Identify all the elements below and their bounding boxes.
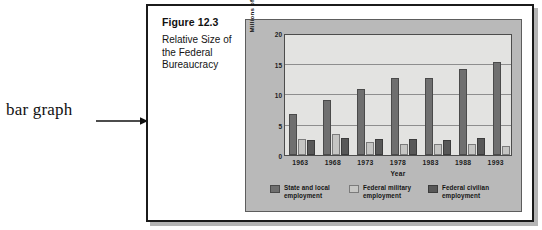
bar xyxy=(366,142,374,155)
legend-item: Federal military employment xyxy=(349,184,428,208)
x-tick-label: 1978 xyxy=(382,159,415,170)
annotation-callout: bar graph xyxy=(0,96,150,136)
x-tick-label: 1968 xyxy=(317,159,350,170)
bar xyxy=(357,89,365,155)
legend-item: Federal civilian employment xyxy=(428,184,507,208)
legend-label: Federal military employment xyxy=(363,184,428,200)
arrow-right-icon xyxy=(96,116,148,126)
x-axis-ticks: 1963196819731978198319881993 xyxy=(284,159,512,170)
legend-swatch xyxy=(428,185,438,193)
bar-group xyxy=(285,35,319,155)
bar-group xyxy=(489,35,512,155)
chart-legend: State and local employmentFederal milita… xyxy=(270,184,507,208)
y-tick-label: 15 xyxy=(275,61,282,68)
y-axis-ticks: 05101520 xyxy=(260,28,284,156)
bar xyxy=(425,78,433,155)
y-tick-label: 5 xyxy=(278,122,282,129)
annotation-label: bar graph xyxy=(6,100,72,120)
figure-number: Figure 12.3 xyxy=(162,16,246,28)
bar xyxy=(477,138,485,155)
x-tick-label: 1988 xyxy=(447,159,480,170)
legend-swatch xyxy=(270,185,280,193)
bar xyxy=(459,69,467,155)
bar xyxy=(332,134,340,155)
bar xyxy=(323,100,331,155)
x-axis-label: Year xyxy=(284,170,512,177)
bar xyxy=(493,62,501,155)
bar xyxy=(409,139,417,155)
plot-area xyxy=(284,34,512,156)
bar xyxy=(502,146,510,155)
y-tick-label: 10 xyxy=(275,92,282,99)
y-tick-label: 0 xyxy=(278,153,282,160)
legend-swatch xyxy=(349,185,359,193)
bar xyxy=(511,139,512,155)
legend-label: Federal civilian employment xyxy=(442,184,507,200)
legend-item: State and local employment xyxy=(270,184,349,208)
bar xyxy=(375,139,383,155)
x-tick-label: 1993 xyxy=(479,159,512,170)
figure-caption: Figure 12.3 Relative Size of the Federal… xyxy=(162,16,246,72)
bar-group xyxy=(421,35,455,155)
bar-group xyxy=(387,35,421,155)
bar xyxy=(341,138,349,155)
y-tick-label: 20 xyxy=(275,31,282,38)
bar xyxy=(298,139,306,155)
legend-label: State and local employment xyxy=(284,184,349,200)
bar xyxy=(391,78,399,155)
bar-group xyxy=(455,35,489,155)
bar xyxy=(400,144,408,155)
bar-group xyxy=(319,35,353,155)
bar-groups xyxy=(285,35,511,155)
bar xyxy=(434,144,442,155)
x-tick-label: 1983 xyxy=(414,159,447,170)
figure-frame: Figure 12.3 Relative Size of the Federal… xyxy=(146,4,534,222)
x-tick-label: 1963 xyxy=(284,159,317,170)
bar xyxy=(443,140,451,155)
y-axis-label: Millions of Employees xyxy=(248,0,258,46)
figure-title: Relative Size of the Federal Bureaucracy xyxy=(162,34,246,72)
bar xyxy=(289,114,297,155)
x-tick-label: 1973 xyxy=(349,159,382,170)
bar xyxy=(307,140,315,155)
bar xyxy=(468,144,476,155)
bar-chart: Millions of Employees 05101520 196319681… xyxy=(245,19,522,212)
bar-group xyxy=(353,35,387,155)
plot-wrapper xyxy=(284,34,512,156)
